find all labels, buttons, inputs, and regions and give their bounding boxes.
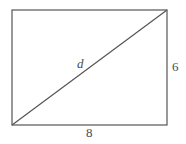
rectangle-diagram-svg bbox=[0, 0, 186, 144]
diagonal-label: d bbox=[77, 57, 84, 70]
geometry-figure: d 6 8 bbox=[0, 0, 186, 144]
width-label: 8 bbox=[86, 126, 93, 139]
height-label: 6 bbox=[172, 60, 179, 73]
diagonal-line bbox=[12, 10, 167, 125]
